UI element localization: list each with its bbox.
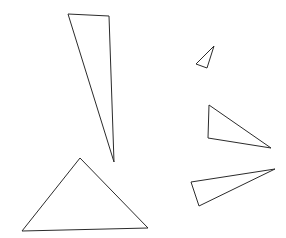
canvas-background bbox=[0, 0, 286, 238]
shape-canvas-svg bbox=[0, 0, 286, 238]
diagram-canvas bbox=[0, 0, 286, 238]
